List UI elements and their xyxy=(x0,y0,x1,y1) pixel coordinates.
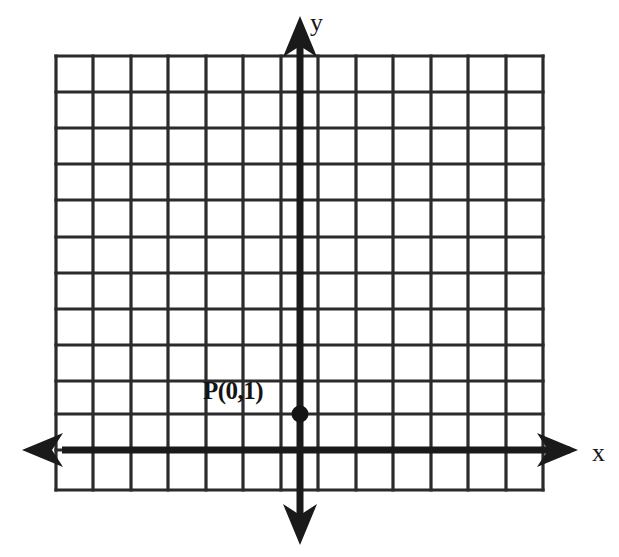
x-axis-label: x xyxy=(592,440,605,466)
y-axis-label: y xyxy=(310,10,323,36)
grid-and-axes-svg xyxy=(0,0,619,557)
coordinate-grid-figure: y x P(0,1) xyxy=(0,0,619,557)
plotted-point-marker xyxy=(292,406,309,423)
point-label-p: P(0,1) xyxy=(203,378,263,403)
